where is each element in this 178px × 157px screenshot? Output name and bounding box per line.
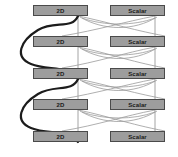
node-label: 2D: [57, 39, 65, 45]
node-scalar-row-1[interactable]: Scalar: [110, 36, 165, 47]
node-scalar-row-2[interactable]: Scalar: [110, 68, 165, 79]
node-2d-row-1[interactable]: 2D: [33, 36, 88, 47]
node-scalar-row-4[interactable]: Scalar: [110, 131, 165, 142]
node-label: 2D: [57, 71, 65, 77]
node-label: 2D: [57, 134, 65, 140]
node-scalar-row-0[interactable]: Scalar: [110, 5, 165, 16]
node-label: Scalar: [128, 102, 147, 108]
node-scalar-row-3[interactable]: Scalar: [110, 99, 165, 110]
node-label: Scalar: [128, 8, 147, 14]
vertical-edges: [78, 16, 155, 142]
node-label: 2D: [57, 8, 65, 14]
node-2d-row-3[interactable]: 2D: [33, 99, 88, 110]
diagram-canvas: 2D Scalar 2D Scalar 2D Scalar 2D Scalar …: [0, 0, 178, 157]
node-label: Scalar: [128, 71, 147, 77]
node-label: 2D: [57, 102, 65, 108]
node-label: Scalar: [128, 39, 147, 45]
node-2d-row-0[interactable]: 2D: [33, 5, 88, 16]
node-2d-row-2[interactable]: 2D: [33, 68, 88, 79]
node-label: Scalar: [128, 134, 147, 140]
node-2d-row-4[interactable]: 2D: [33, 131, 88, 142]
